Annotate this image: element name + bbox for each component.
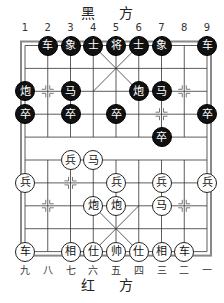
red-piece-车[interactable]: 车 xyxy=(174,242,194,262)
red-piece-仕[interactable]: 仕 xyxy=(129,242,149,262)
red-piece-兵[interactable]: 兵 xyxy=(15,173,35,193)
red-piece-帅[interactable]: 帅 xyxy=(106,242,126,262)
red-piece-马[interactable]: 马 xyxy=(152,196,172,216)
black-piece-卒[interactable]: 卒 xyxy=(61,104,81,124)
black-piece-士[interactable]: 士 xyxy=(83,36,103,56)
black-piece-将[interactable]: 将 xyxy=(106,36,126,56)
black-piece-炮[interactable]: 炮 xyxy=(129,81,149,101)
red-piece-兵[interactable]: 兵 xyxy=(197,173,217,193)
red-piece-兵[interactable]: 兵 xyxy=(152,173,172,193)
black-piece-卒[interactable]: 卒 xyxy=(152,127,172,147)
red-piece-车[interactable]: 车 xyxy=(15,242,35,262)
red-piece-相[interactable]: 相 xyxy=(152,242,172,262)
red-piece-相[interactable]: 相 xyxy=(61,242,81,262)
red-piece-炮[interactable]: 炮 xyxy=(106,196,126,216)
black-piece-马[interactable]: 马 xyxy=(61,81,81,101)
red-piece-兵[interactable]: 兵 xyxy=(106,173,126,193)
black-piece-车[interactable]: 车 xyxy=(197,36,217,56)
black-piece-象[interactable]: 象 xyxy=(61,36,81,56)
red-piece-炮[interactable]: 炮 xyxy=(83,196,103,216)
red-piece-兵[interactable]: 兵 xyxy=(61,150,81,170)
black-piece-车[interactable]: 车 xyxy=(38,36,58,56)
red-piece-仕[interactable]: 仕 xyxy=(83,242,103,262)
black-piece-马[interactable]: 马 xyxy=(152,81,172,101)
black-piece-象[interactable]: 象 xyxy=(152,36,172,56)
red-side-title: 红 方 xyxy=(0,274,224,294)
black-piece-士[interactable]: 士 xyxy=(129,36,149,56)
